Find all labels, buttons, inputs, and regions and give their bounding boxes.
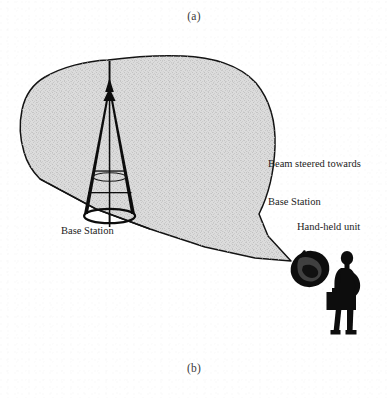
person-foot-back — [331, 330, 341, 335]
tower-center-member — [109, 95, 111, 223]
figure-page: (a) — [0, 0, 388, 398]
tower-brace-1 — [95, 170, 126, 171]
tower-brace-2 — [88, 192, 132, 193]
person-foot-front — [346, 330, 357, 335]
handheld-device — [286, 246, 334, 292]
person-briefcase — [327, 292, 342, 310]
briefcase-handle — [332, 288, 337, 293]
person-leg-back — [334, 308, 342, 332]
base-station-annotation: Base Station — [61, 225, 114, 238]
beam-annotation-line2: Base Station — [268, 196, 361, 209]
part-label-b: (b) — [0, 362, 388, 374]
person-head — [341, 251, 353, 265]
beam-annotation: Beam steered towards Base Station — [268, 133, 361, 234]
person-neck — [345, 263, 350, 268]
beam-annotation-line1: Beam steered towards — [268, 158, 361, 171]
handheld-annotation: Hand-held unit — [297, 221, 360, 234]
person-leg-front — [347, 308, 354, 332]
person-silhouette — [327, 251, 361, 335]
